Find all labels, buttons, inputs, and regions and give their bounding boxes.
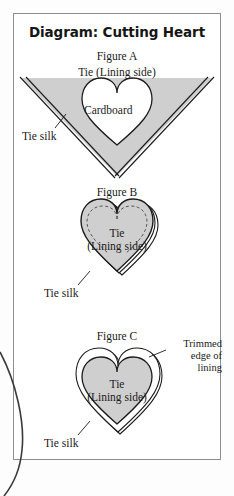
diagram-page: Diagram: Cutting Heart Figure A Tie (Lin… [0, 0, 234, 496]
figure-c-tie-silk-label: Tie silk [44, 437, 78, 450]
figure-a-inner-label: Cardboard [84, 104, 133, 117]
figure-c-trimmed-label-line2: edge of [164, 350, 222, 362]
figure-b-tie-silk-label: Tie silk [44, 287, 78, 300]
figure-a-label: Figure A [0, 50, 234, 63]
figure-b-label: Figure B [0, 186, 234, 199]
figure-a-top-label: Tie (Lining side) [0, 66, 234, 79]
figure-c-inner-label-line2: (Lining side) [0, 391, 234, 404]
figure-b-inner-label-line1: Tie [0, 227, 234, 240]
figure-c-trimmed-label-line3: lining [164, 362, 222, 374]
figure-b-inner-label-line2: (Lining side) [0, 240, 234, 253]
page-title: Diagram: Cutting Heart [0, 24, 234, 40]
figure-a-tie-silk-label: Tie silk [22, 130, 56, 143]
figure-c-trimmed-label-line1: Trimmed [164, 338, 222, 350]
figure-c-inner-label-line1: Tie [0, 378, 234, 391]
